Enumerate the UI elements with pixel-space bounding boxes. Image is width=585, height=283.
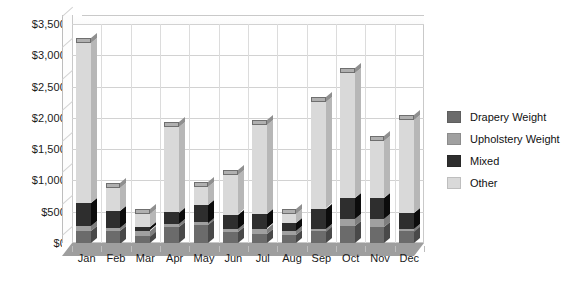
bar-segment[interactable] <box>282 231 297 235</box>
bar-segment-face <box>252 214 267 228</box>
bar-segment[interactable] <box>340 73 355 198</box>
x-axis-tick-mark <box>248 246 249 252</box>
bar-segment[interactable] <box>311 229 326 232</box>
legend-item[interactable]: Drapery Weight <box>447 108 582 126</box>
bar-segment[interactable] <box>164 224 179 227</box>
y-axis-tick-label: $3,000 <box>32 49 66 61</box>
bar-segment-side <box>414 115 420 213</box>
legend-item[interactable]: Mixed <box>447 152 582 170</box>
bar-series-group <box>72 24 424 243</box>
bar-segment[interactable] <box>282 214 297 223</box>
bar-segment[interactable] <box>76 203 91 226</box>
x-axis-tick-mark <box>101 246 102 252</box>
bar-segment[interactable] <box>76 226 91 231</box>
bar-column[interactable] <box>106 188 121 243</box>
bar-segment-face <box>223 232 238 243</box>
bar-segment[interactable] <box>223 232 238 243</box>
bar-segment[interactable] <box>399 120 414 213</box>
bar-segment[interactable] <box>311 102 326 208</box>
legend-item-label: Mixed <box>470 155 499 167</box>
bar-segment-face <box>340 219 355 226</box>
bar-top-cap <box>194 182 209 187</box>
bar-segment[interactable] <box>135 214 150 227</box>
bar-segment-face <box>340 226 355 243</box>
bar-segment[interactable] <box>311 209 326 229</box>
bar-segment-face <box>311 231 326 243</box>
bar-column[interactable] <box>282 214 297 243</box>
bar-segment[interactable] <box>223 229 238 232</box>
bar-segment[interactable] <box>340 198 355 219</box>
bar-segment-face <box>106 228 121 231</box>
bar-column[interactable] <box>76 43 91 243</box>
bar-segment[interactable] <box>164 212 179 224</box>
bar-segment[interactable] <box>399 231 414 243</box>
bar-top-cap <box>399 115 414 120</box>
bar-segment-face <box>223 215 238 229</box>
bar-segment[interactable] <box>252 125 267 214</box>
bar-segment[interactable] <box>194 225 209 243</box>
legend-item-label: Drapery Weight <box>470 111 546 123</box>
x-axis-tick-mark <box>189 246 190 252</box>
x-axis-tick-label: Aug <box>282 252 302 264</box>
legend-item[interactable]: Other <box>447 174 582 192</box>
bar-segment[interactable] <box>370 198 385 219</box>
bar-segment-face <box>399 231 414 243</box>
bar-segment-face <box>340 73 355 198</box>
bar-segment-face <box>223 229 238 232</box>
bar-segment[interactable] <box>370 219 385 227</box>
bar-column[interactable] <box>223 175 238 243</box>
bar-segment-face <box>106 188 121 211</box>
bar-segment[interactable] <box>106 211 121 228</box>
bar-segment[interactable] <box>76 231 91 243</box>
bar-segment[interactable] <box>106 228 121 231</box>
legend-item[interactable]: Upholstery Weight <box>447 130 582 148</box>
bar-column[interactable] <box>194 187 209 243</box>
bar-segment[interactable] <box>164 227 179 243</box>
bar-segment[interactable] <box>135 227 150 230</box>
bar-top-cap <box>252 120 267 125</box>
bar-segment[interactable] <box>370 141 385 198</box>
bar-segment-face <box>194 222 209 225</box>
bar-segment[interactable] <box>252 234 267 243</box>
bar-segment[interactable] <box>164 127 179 213</box>
bar-segment[interactable] <box>223 175 238 214</box>
bar-segment-face <box>76 226 91 231</box>
bar-segment[interactable] <box>399 213 414 229</box>
bar-segment[interactable] <box>340 219 355 226</box>
legend-swatch-icon <box>447 133 461 145</box>
bar-segment[interactable] <box>282 223 297 231</box>
bar-segment[interactable] <box>282 235 297 243</box>
bar-column[interactable] <box>399 120 414 243</box>
bar-column[interactable] <box>135 214 150 243</box>
bar-column[interactable] <box>340 73 355 243</box>
bar-segment[interactable] <box>399 229 414 232</box>
bar-segment[interactable] <box>252 229 267 234</box>
bar-column[interactable] <box>370 141 385 243</box>
bar-top-cap <box>311 97 326 102</box>
bar-segment[interactable] <box>194 187 209 205</box>
bar-segment[interactable] <box>76 43 91 203</box>
bar-segment[interactable] <box>370 227 385 243</box>
bar-segment-side <box>384 136 390 198</box>
bar-segment[interactable] <box>194 222 209 225</box>
bar-segment-side <box>238 170 244 214</box>
bar-segment-face <box>106 211 121 228</box>
bar-segment[interactable] <box>194 205 209 223</box>
bar-segment[interactable] <box>135 231 150 237</box>
bar-segment[interactable] <box>311 231 326 243</box>
bar-segment-face <box>311 209 326 229</box>
bar-segment[interactable] <box>135 236 150 243</box>
bar-segment-face <box>311 102 326 208</box>
bar-segment-face <box>282 214 297 223</box>
bar-segment[interactable] <box>106 188 121 211</box>
bar-segment-face <box>135 227 150 230</box>
bar-segment[interactable] <box>223 215 238 229</box>
x-axis-tick-mark <box>424 246 425 252</box>
bar-column[interactable] <box>252 125 267 243</box>
bar-segment[interactable] <box>106 231 121 244</box>
bar-column[interactable] <box>311 102 326 243</box>
bar-segment[interactable] <box>340 226 355 243</box>
x-axis-tick-label: Feb <box>107 252 126 264</box>
bar-segment[interactable] <box>252 214 267 228</box>
bar-column[interactable] <box>164 127 179 243</box>
